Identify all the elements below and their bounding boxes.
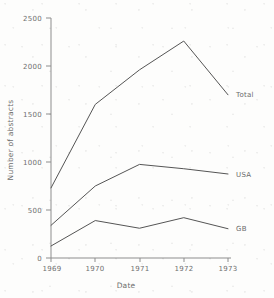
y-tick-label: 1000 [23,159,42,167]
x-tick-label: 1973 [218,265,237,273]
chart-canvas: 0 500 1000 1500 2000 2500 1969 1970 1971… [0,0,274,298]
series-line-gb [51,218,228,246]
series-line-total [51,41,228,188]
y-tick-label: 2000 [23,63,42,71]
y-tick-label: 1500 [23,111,42,119]
y-tick-label: 2500 [23,15,42,23]
y-tick-label: 0 [37,255,42,263]
y-tick-label: 500 [28,207,42,215]
line-chart-figure: 0 500 1000 1500 2000 2500 1969 1970 1971… [0,0,274,298]
x-tick-label: 1971 [130,265,149,273]
series-label-usa: USA [236,171,251,179]
y-axis-ticks [46,18,51,258]
series-label-total: Total [235,91,254,99]
series-label-gb: GB [236,225,247,233]
x-tick-label: 1969 [42,265,61,273]
x-tick-label: 1970 [85,265,104,273]
x-axis-ticks [51,258,228,262]
series-line-usa [51,164,228,225]
x-axis-title: Date [117,281,136,290]
x-tick-label: 1972 [174,265,193,273]
y-axis-title: Number of abstracts [6,100,15,181]
